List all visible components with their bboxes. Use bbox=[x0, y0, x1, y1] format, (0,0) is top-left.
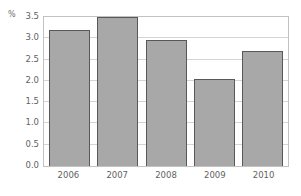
x-tick-label: 2010 bbox=[239, 170, 288, 180]
y-tick-label: 0.0 bbox=[17, 161, 39, 169]
bar bbox=[49, 30, 90, 166]
y-tick-label: 3.5 bbox=[17, 12, 39, 20]
bar bbox=[242, 51, 283, 166]
bar-slot bbox=[190, 17, 238, 166]
x-axis-tick-labels: 2006 2007 2008 2009 2010 bbox=[43, 170, 289, 180]
y-axis-tick-labels: 3.5 3.0 2.5 2.0 1.5 1.0 0.5 0.0 bbox=[14, 0, 39, 196]
bar bbox=[194, 79, 235, 166]
x-tick-label: 2007 bbox=[93, 170, 142, 180]
bar bbox=[97, 17, 138, 166]
x-tick-label: 2009 bbox=[190, 170, 239, 180]
bar-slot bbox=[142, 17, 190, 166]
y-tick-label: 2.5 bbox=[17, 55, 39, 63]
bar-slot bbox=[93, 17, 141, 166]
bar-slot bbox=[45, 17, 93, 166]
bar bbox=[146, 40, 187, 166]
y-tick-label: 3.0 bbox=[17, 33, 39, 41]
x-tick-label: 2008 bbox=[142, 170, 191, 180]
y-tick-label: 1.0 bbox=[17, 118, 39, 126]
bar-group bbox=[44, 17, 288, 166]
x-tick-label: 2006 bbox=[44, 170, 93, 180]
bar-chart: % 3.5 3.0 2.5 2.0 1.5 1.0 0.5 0.0 bbox=[0, 0, 301, 196]
y-tick-label: 2.0 bbox=[17, 76, 39, 84]
bar-slot bbox=[239, 17, 287, 166]
y-tick-label: 1.5 bbox=[17, 97, 39, 105]
plot-area bbox=[43, 16, 289, 167]
y-tick-label: 0.5 bbox=[17, 140, 39, 148]
